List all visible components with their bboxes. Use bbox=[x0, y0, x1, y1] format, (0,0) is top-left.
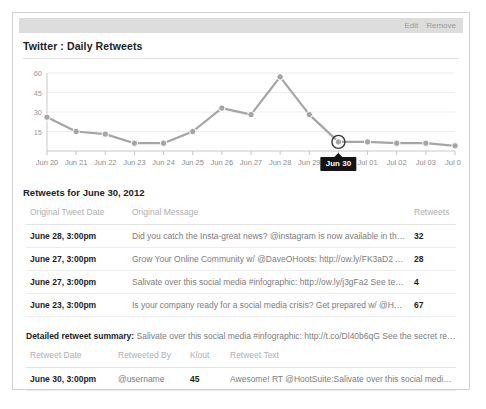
retweets-section-heading: Retweets for June 30, 2012 bbox=[23, 187, 459, 198]
chart-data-point[interactable] bbox=[277, 74, 283, 80]
x-axis-tick-label: Jun 27 bbox=[240, 158, 263, 167]
page-title: Twitter : Daily Retweets bbox=[23, 40, 459, 59]
cell-retweets-count: 67 bbox=[410, 294, 456, 317]
x-axis-tick-label: Jun 20 bbox=[36, 158, 59, 167]
table-row[interactable]: June 28, 3:00pmDid you catch the Insta-g… bbox=[26, 225, 456, 248]
cell-retweets-count: 4 bbox=[410, 271, 456, 294]
retweets-table: Original Tweet Date Original Message Ret… bbox=[26, 198, 456, 317]
cell-retweets-count: 28 bbox=[410, 248, 456, 271]
detailed-summary-text: Salivate over this social media #infogra… bbox=[137, 331, 456, 341]
chart-data-point[interactable] bbox=[44, 114, 50, 120]
chart-canvas[interactable]: 15304560Jun 20Jun 21Jun 22Jun 23Jun 24Ju… bbox=[23, 65, 461, 173]
chart-data-point[interactable] bbox=[452, 143, 458, 149]
chart-data-point[interactable] bbox=[306, 111, 312, 117]
x-axis-tick-label: Jun 24 bbox=[152, 158, 175, 167]
chart-data-point[interactable] bbox=[335, 139, 341, 145]
cell-retweet-text: Awesome! RT @HootSuite:Salivate over thi… bbox=[226, 368, 456, 391]
x-axis-tick-label: Jun 28 bbox=[269, 158, 292, 167]
analytics-panel: Edit Remove Twitter : Daily Retweets 153… bbox=[12, 12, 470, 390]
x-axis-tick-label: Jun 21 bbox=[65, 158, 88, 167]
detail-table-header-row: Retweet Date Retweeted By Klout Retweet … bbox=[26, 341, 456, 368]
cell-original-message: Salivate over this social media #infogra… bbox=[128, 271, 410, 294]
x-axis-tick-label: Jul 01 bbox=[358, 158, 378, 167]
col-retweeted-by[interactable]: Retweeted By bbox=[114, 341, 186, 368]
cell-original-message: Grow Your Online Community w/ @DaveOHoot… bbox=[128, 248, 410, 271]
chart-data-point[interactable] bbox=[131, 140, 137, 146]
x-axis-tick-label: Jun 29 bbox=[298, 158, 321, 167]
col-retweet-date[interactable]: Retweet Date bbox=[26, 341, 114, 368]
chart-data-point[interactable] bbox=[190, 128, 196, 134]
cell-original-message: Did you catch the Insta-great news? @ins… bbox=[128, 225, 410, 248]
chart-tooltip: Jun 30 bbox=[321, 157, 356, 171]
table-row[interactable]: June 23, 3:00pmIs your company ready for… bbox=[26, 294, 456, 317]
table-row[interactable]: June 27, 3:00pmGrow Your Online Communit… bbox=[26, 248, 456, 271]
cell-original-tweet-date: June 27, 3:00pm bbox=[26, 271, 128, 294]
chart-data-point[interactable] bbox=[423, 140, 429, 146]
col-retweet-text[interactable]: Retweet Text bbox=[226, 341, 456, 368]
col-retweets[interactable]: Retweets bbox=[410, 198, 456, 225]
cell-klout: 45 bbox=[186, 368, 226, 391]
cell-original-tweet-date: June 28, 3:00pm bbox=[26, 225, 128, 248]
x-axis-tick-label: Jun 22 bbox=[94, 158, 117, 167]
cell-original-tweet-date: June 23, 3:00pm bbox=[26, 294, 128, 317]
detailed-summary-label: Detailed retweet summary: bbox=[26, 331, 134, 341]
cell-retweets-count: 32 bbox=[410, 225, 456, 248]
x-axis-tick-label: Jul 03 bbox=[416, 158, 436, 167]
y-axis-tick-label: 30 bbox=[34, 108, 42, 117]
x-axis-tick-label: Jun 26 bbox=[211, 158, 234, 167]
chart-data-point[interactable] bbox=[160, 140, 166, 146]
retweets-table-header-row: Original Tweet Date Original Message Ret… bbox=[26, 198, 456, 225]
retweets-line-chart[interactable]: 15304560Jun 20Jun 21Jun 22Jun 23Jun 24Ju… bbox=[23, 65, 459, 173]
chart-data-point[interactable] bbox=[73, 128, 79, 134]
table-row[interactable]: June 27, 3:00pmSalivate over this social… bbox=[26, 271, 456, 294]
remove-button[interactable]: Remove bbox=[426, 21, 456, 30]
col-original-message[interactable]: Original Message bbox=[128, 198, 410, 225]
edit-button[interactable]: Edit bbox=[404, 21, 418, 30]
chart-data-point[interactable] bbox=[394, 140, 400, 146]
x-axis-tick-label: Jul 04 bbox=[445, 158, 461, 167]
chart-data-point[interactable] bbox=[364, 139, 370, 145]
chart-data-point[interactable] bbox=[219, 105, 225, 111]
detail-table: Retweet Date Retweeted By Klout Retweet … bbox=[26, 341, 456, 391]
col-klout[interactable]: Klout bbox=[186, 341, 226, 368]
panel-titlebar-actions: Edit Remove bbox=[404, 21, 463, 30]
x-axis-tick-label: Jun 23 bbox=[123, 158, 146, 167]
detailed-retweet-summary: Detailed retweet summary: Salivate over … bbox=[26, 331, 456, 341]
col-original-tweet-date[interactable]: Original Tweet Date bbox=[26, 198, 128, 225]
panel-titlebar: Edit Remove bbox=[19, 18, 463, 33]
x-axis-tick-label: Jun 25 bbox=[181, 158, 204, 167]
table-row[interactable]: June 30, 3:00pm@username45Awesome! RT @H… bbox=[26, 368, 456, 391]
x-axis-tick-label: Jul 02 bbox=[387, 158, 407, 167]
cell-original-message: Is your company ready for a social media… bbox=[128, 294, 410, 317]
chart-data-point[interactable] bbox=[102, 131, 108, 137]
cell-retweeted-by: @username bbox=[114, 368, 186, 391]
y-axis-tick-label: 45 bbox=[34, 89, 42, 98]
chart-data-point[interactable] bbox=[248, 111, 254, 117]
cell-original-tweet-date: June 27, 3:00pm bbox=[26, 248, 128, 271]
cell-retweet-date: June 30, 3:00pm bbox=[26, 368, 114, 391]
y-axis-tick-label: 15 bbox=[34, 128, 42, 137]
y-axis-tick-label: 60 bbox=[34, 69, 42, 78]
